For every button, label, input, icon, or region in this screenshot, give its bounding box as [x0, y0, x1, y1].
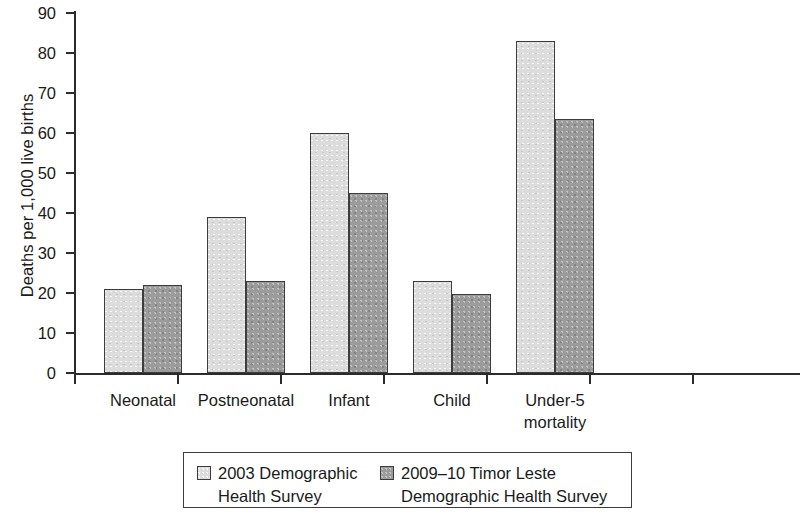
y-axis-tick-label: 50 [14, 164, 56, 183]
bar-neonatal-series-1 [143, 285, 182, 373]
legend-entry-2003: 2003 Demographic Health Survey [197, 462, 357, 508]
y-axis-tick-label: 40 [14, 204, 56, 223]
chart-legend: 2003 Demographic Health Survey 2009–10 T… [183, 452, 632, 508]
legend-label-2009-10: 2009–10 Timor Leste Demographic Health S… [401, 462, 607, 508]
y-axis-tick-label: 90 [14, 4, 56, 23]
y-axis-tick-label: 80 [14, 44, 56, 63]
bar-under-5-mortality-series-0 [516, 41, 555, 373]
bar-infant-series-0 [310, 133, 349, 373]
bar-child-series-1 [452, 294, 491, 373]
legend-label-2003: 2003 Demographic Health Survey [218, 462, 357, 508]
legend-swatch-dark-gray-icon [380, 466, 394, 480]
x-axis-tick [177, 375, 179, 384]
bars-layer [74, 13, 800, 373]
legend-swatch-light-gray-icon [197, 466, 211, 480]
x-axis-tick [486, 375, 488, 384]
bar-postneonatal-series-0 [207, 217, 246, 373]
bar-child-series-0 [413, 281, 452, 373]
bar-under-5-mortality-series-1 [555, 119, 594, 373]
bar-neonatal-series-0 [104, 289, 143, 373]
bar-postneonatal-series-1 [246, 281, 285, 373]
x-axis-tick [692, 375, 694, 384]
legend-entry-2009-10: 2009–10 Timor Leste Demographic Health S… [380, 462, 607, 508]
y-axis-tick-label: 60 [14, 124, 56, 143]
y-axis-tick-label: 30 [14, 244, 56, 263]
y-axis-tick-label: 0 [14, 364, 56, 383]
x-axis-label-under-5-mortality: Under-5 mortality [485, 389, 625, 433]
y-axis-tick-label: 20 [14, 284, 56, 303]
x-axis-tick [280, 375, 282, 384]
x-axis-tick [589, 375, 591, 384]
bar-chart: Deaths per 1,000 live births 01020304050… [0, 0, 805, 515]
bar-infant-series-1 [349, 193, 388, 373]
y-axis-tick-label: 10 [14, 324, 56, 343]
x-axis-tick [74, 375, 76, 384]
y-axis-tick-label: 70 [14, 84, 56, 103]
x-axis-tick [383, 375, 385, 384]
